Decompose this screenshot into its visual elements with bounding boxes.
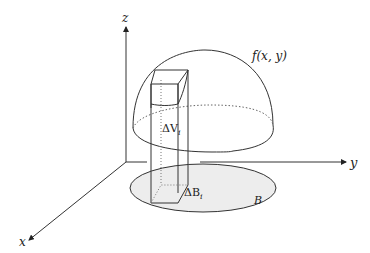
dome-back-rim-dotted (133, 105, 273, 128)
volume-diagram: z y x f(x, y) B ΔVi ΔBi (0, 0, 370, 253)
region-b-label: B (253, 194, 262, 207)
x-axis-label: x (19, 235, 26, 249)
z-axis-label: z (121, 11, 129, 25)
hemisphere-surface (133, 50, 273, 152)
y-axis-label: y (349, 155, 358, 170)
dome-outline (133, 50, 273, 151)
x-axis (29, 162, 126, 240)
surface-label: f(x, y) (251, 49, 287, 63)
dome-front-rim (133, 128, 233, 152)
